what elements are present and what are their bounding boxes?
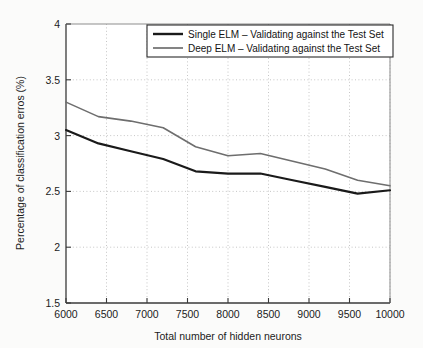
x-tick-label: 10000 [375,308,404,320]
line-chart: 6000650070007500800085009000950010000 1.… [0,0,423,348]
y-tick-label: 3.5 [45,74,60,86]
y-axis-title: Percentage of classification erros (%) [14,76,26,250]
x-tick-label: 7500 [176,308,200,320]
x-tick-label: 6000 [54,308,78,320]
x-tick-labels: 6000650070007500800085009000950010000 [54,308,404,320]
chart-figure: 6000650070007500800085009000950010000 1.… [0,0,423,348]
x-tick-label: 9500 [338,308,362,320]
x-axis-title: Total number of hidden neurons [154,330,302,342]
chart-legend[interactable]: Single ELM – Validating against the Test… [147,25,393,57]
legend-label-deep: Deep ELM – Validating against the Test S… [188,43,380,54]
x-tick-label: 8000 [216,308,240,320]
legend-label-single: Single ELM – Validating against the Test… [188,29,384,40]
y-tick-label: 2 [54,241,60,253]
x-tick-label: 9000 [297,308,321,320]
y-tick-label: 3 [54,130,60,142]
x-tick-label: 7000 [135,308,159,320]
y-tick-label: 4 [54,18,60,30]
x-tick-label: 6500 [95,308,119,320]
y-tick-label: 2.5 [45,185,60,197]
x-tick-label: 8500 [257,308,281,320]
y-tick-label: 1.5 [45,297,60,309]
